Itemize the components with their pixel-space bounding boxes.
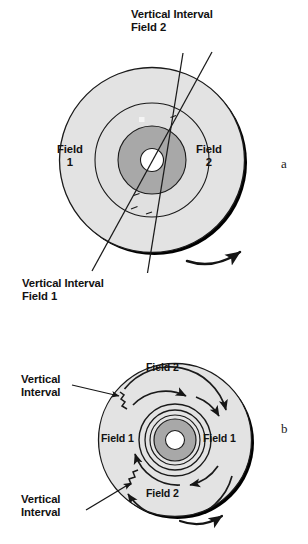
callout-vertical-interval-lower: VerticalInterval <box>21 493 60 520</box>
label-field-2-bottom-panel-b: Field 2 <box>146 487 179 500</box>
disc-b-center-hub <box>166 431 185 450</box>
disc-a-center-hub <box>141 149 164 172</box>
panel-letter-b: b <box>281 422 288 435</box>
label-field-1-right-panel-b: Field 1 <box>203 432 236 445</box>
label-field-1-left-panel-b: Field 1 <box>101 432 134 445</box>
label-field-2-top-panel-b: Field 2 <box>146 361 179 374</box>
label-field-1-panel-a: Field1 <box>57 143 83 170</box>
callout-vertical-interval-field-2: Vertical IntervalField 2 <box>131 8 213 35</box>
callout-vertical-interval-field-1: Vertical IntervalField 1 <box>22 277 104 304</box>
figure-container: Vertical IntervalField 2 Vertical Interv… <box>0 0 308 544</box>
callout-vertical-interval-upper: VerticalInterval <box>21 373 60 400</box>
disc-a-ring-notch <box>139 117 145 122</box>
panel-letter-a: a <box>281 157 287 170</box>
label-field-2-panel-a: Field2 <box>196 143 222 170</box>
leader-arrow-vertical-interval-upper <box>72 385 119 396</box>
disc-diagram-svg <box>0 0 308 544</box>
rotation-arrow-a <box>187 252 240 264</box>
